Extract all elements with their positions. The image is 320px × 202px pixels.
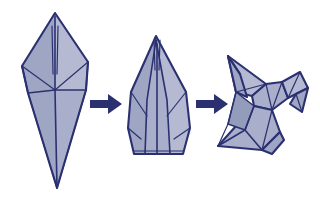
diagram-canvas bbox=[0, 0, 320, 202]
origami-crane-diagram: Origami crane folding sequence bbox=[0, 0, 320, 202]
